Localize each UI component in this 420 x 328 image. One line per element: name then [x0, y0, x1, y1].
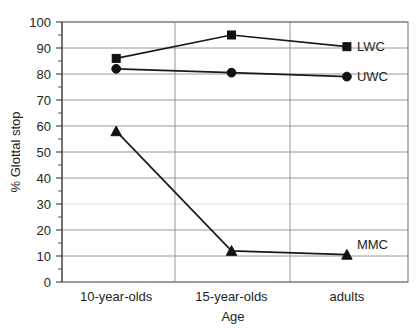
x-category-label-1: 15-year-olds	[195, 289, 268, 304]
y-tick-label-0: 0	[44, 275, 51, 290]
y-tick-label-50: 50	[37, 145, 51, 160]
y-tick-label-40: 40	[37, 171, 51, 186]
series-uwc-label: UWC	[357, 69, 388, 84]
y-tick-label-60: 60	[37, 119, 51, 134]
y-tick-label-70: 70	[37, 93, 51, 108]
x-axis-title: Age	[221, 309, 244, 324]
series-lwc-marker-0	[112, 54, 120, 62]
y-tick-labels: 100 90 80 70 60 50 40 30 20 10 0	[29, 15, 51, 290]
y-axis-title: % Glottal stop	[8, 112, 23, 193]
x-category-label-0: 10-year-olds	[80, 289, 153, 304]
y-tick-label-30: 30	[37, 197, 51, 212]
series-lwc-marker-2	[343, 43, 351, 51]
y-tick-label-80: 80	[37, 67, 51, 82]
series-lwc-marker-1	[228, 31, 236, 39]
y-tick-label-10: 10	[37, 249, 51, 264]
series-uwc-marker-1	[227, 68, 236, 77]
series-uwc-marker-2	[343, 72, 352, 81]
series-mmc-label: MMC	[357, 237, 388, 252]
y-tick-label-100: 100	[29, 15, 51, 30]
x-category-label-2: adults	[330, 289, 365, 304]
series-lwc-label: LWC	[357, 39, 385, 54]
line-chart: 100 90 80 70 60 50 40 30 20 10 0 % Glott…	[0, 0, 420, 328]
chart-container: 100 90 80 70 60 50 40 30 20 10 0 % Glott…	[0, 0, 420, 328]
x-tick-labels: 10-year-olds 15-year-olds adults	[80, 289, 365, 304]
series-uwc-marker-0	[112, 64, 121, 73]
y-tick-label-20: 20	[37, 223, 51, 238]
y-tick-label-90: 90	[37, 41, 51, 56]
